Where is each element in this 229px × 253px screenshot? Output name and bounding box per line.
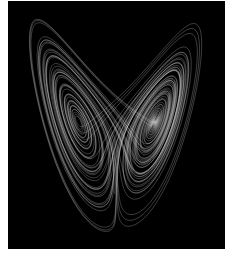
attractor-trajectory (29, 19, 201, 231)
attractor-image: Lorenz attractor (8, 1, 225, 249)
lorenz-attractor-plot (8, 1, 225, 249)
